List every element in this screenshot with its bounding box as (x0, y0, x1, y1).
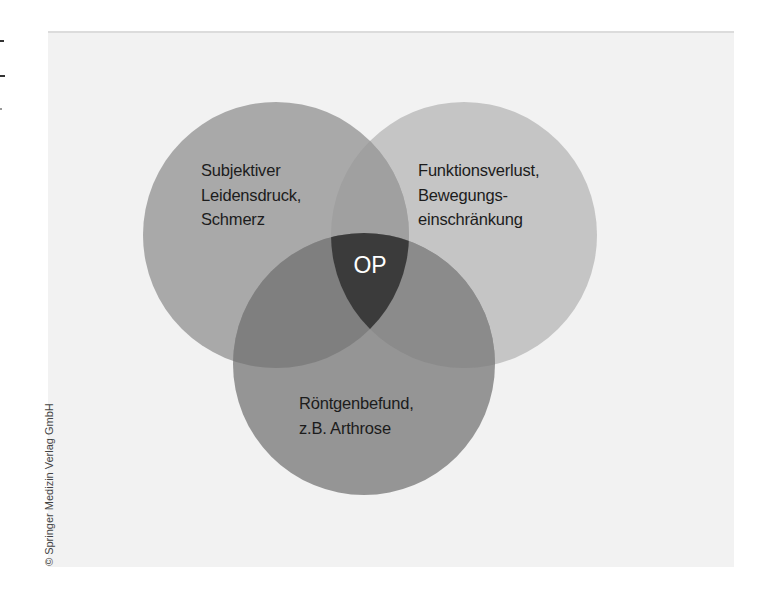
label-right-set: Funktionsverlust, Bewegungs- einschränku… (418, 158, 539, 232)
venn-diagram (0, 0, 765, 600)
label-left-set: Subjektiver Leidensdruck, Schmerz (201, 158, 301, 232)
center-label-op: OP (340, 252, 400, 278)
copyright-notice: © Springer Medizin Verlag GmbH (43, 403, 55, 566)
label-bottom-set: Röntgenbefund, z.B. Arthrose (299, 391, 414, 440)
